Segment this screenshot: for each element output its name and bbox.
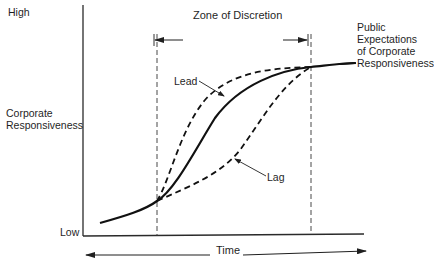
lag-curve bbox=[157, 67, 311, 201]
y-axis-title: Corporate Responsiveness bbox=[6, 107, 83, 131]
y-axis-title-line2: Responsiveness bbox=[6, 119, 83, 131]
public-label-line1: Public bbox=[357, 21, 434, 33]
x-axis-time-label: Time bbox=[213, 244, 243, 256]
zone-of-discretion-label: Zone of Discretion bbox=[190, 9, 285, 21]
lag-pointer bbox=[235, 159, 266, 176]
lead-label: Lead bbox=[174, 75, 197, 87]
public-label-connector bbox=[340, 63, 356, 64]
public-label-line4: Responsiveness bbox=[357, 57, 434, 69]
public-expectations-label: Public Expectations of Corporate Respons… bbox=[357, 21, 434, 69]
time-arrow-right bbox=[243, 251, 366, 255]
lag-label: Lag bbox=[267, 171, 285, 183]
y-axis-high-label: High bbox=[8, 6, 30, 18]
y-axis-title-line1: Corporate bbox=[6, 107, 83, 119]
y-axis-low-label: Low bbox=[60, 226, 79, 238]
lead-curve bbox=[157, 67, 311, 201]
public-expectations-curve bbox=[100, 63, 355, 223]
x-axis bbox=[83, 234, 364, 236]
public-label-line3: of Corporate bbox=[357, 45, 434, 57]
public-label-line2: Expectations bbox=[357, 33, 434, 45]
